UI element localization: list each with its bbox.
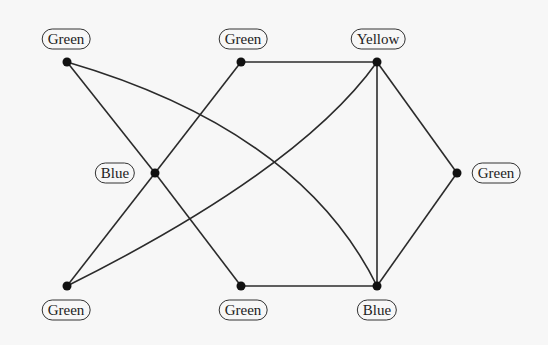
vertex-label-n_tm: Green — [219, 29, 268, 50]
edge-n_r-n_br — [377, 173, 457, 286]
vertex-label-n_br: Blue — [357, 300, 397, 321]
vertex-n_tm — [237, 58, 246, 67]
vertex-n_bl — [63, 282, 72, 291]
vertex-label-n_tl: Green — [42, 29, 91, 50]
graph-edges-layer — [0, 0, 548, 345]
vertex-n_bm — [237, 282, 246, 291]
vertex-n_br — [373, 282, 382, 291]
graph-coloring-diagram: GreenGreenYellowBlueGreenGreenGreenBlue — [0, 0, 548, 345]
edge-n_tl-n_ml — [67, 62, 155, 173]
vertex-label-n_tr: Yellow — [351, 29, 406, 50]
edge-n_tm-n_ml — [155, 62, 241, 173]
vertex-n_tr — [373, 58, 382, 67]
vertex-label-n_bm: Green — [219, 300, 268, 321]
edge-n_tr-n_r — [377, 62, 457, 173]
vertex-n_ml — [151, 169, 160, 178]
edge-n_ml-n_bm — [155, 173, 241, 286]
vertex-label-n_ml: Blue — [95, 163, 135, 184]
vertex-n_r — [453, 169, 462, 178]
vertex-label-n_r: Green — [472, 163, 521, 184]
edge-n_ml-n_bl — [67, 173, 155, 286]
vertex-label-n_bl: Green — [42, 300, 91, 321]
vertex-n_tl — [63, 58, 72, 67]
